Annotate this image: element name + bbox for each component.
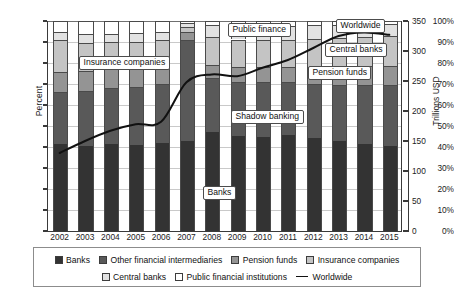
y-axis-right-line (408, 21, 409, 232)
bar-segment[interactable] (129, 33, 144, 41)
bar-segment[interactable] (78, 91, 93, 146)
gridline (48, 210, 401, 211)
chart-legend: BanksOther financial intermediariesPensi… (33, 247, 421, 287)
bar-segment[interactable] (180, 40, 195, 141)
bar-segment[interactable] (281, 82, 296, 135)
gridline (48, 126, 401, 127)
bar-segment[interactable] (205, 78, 220, 132)
bar-segment[interactable] (180, 23, 195, 27)
bar-segment[interactable] (53, 92, 68, 144)
bar-segment[interactable] (129, 21, 144, 33)
bar-segment[interactable] (155, 84, 170, 143)
legend-item[interactable]: Insurance companies (306, 255, 399, 265)
legend-item[interactable]: Banks (55, 255, 90, 265)
bar-stack[interactable] (307, 21, 322, 231)
bar-segment[interactable] (78, 21, 93, 34)
bar-segment[interactable] (155, 21, 170, 32)
bar-segment[interactable] (129, 87, 144, 145)
legend-item[interactable]: Pension funds (231, 255, 297, 265)
bar-segment[interactable] (231, 67, 246, 82)
bar-segment[interactable] (104, 34, 119, 43)
bar-segment[interactable] (205, 21, 220, 25)
bar-segment[interactable] (155, 32, 170, 40)
bar-segment[interactable] (281, 67, 296, 82)
bar-segment[interactable] (383, 85, 398, 146)
bar-segment[interactable] (205, 65, 220, 78)
bar-segment[interactable] (78, 34, 93, 43)
y-axis-right-tick-label: 350 (412, 16, 448, 26)
legend-item-label: Public financial institutions (187, 272, 287, 282)
bar-segment[interactable] (205, 132, 220, 231)
bar-stack[interactable] (129, 21, 144, 231)
bar-stack[interactable] (53, 21, 68, 231)
bar-segment[interactable] (332, 141, 347, 231)
y-axis-right-tick-label: 50 (412, 196, 448, 206)
bar-stack[interactable] (78, 21, 93, 231)
legend-color-swatch (175, 273, 183, 281)
bar-segment[interactable] (129, 145, 144, 231)
bar-segment[interactable] (383, 21, 398, 24)
legend-item[interactable]: Worldwide (296, 272, 352, 282)
bar-segment[interactable] (383, 146, 398, 231)
bar-segment[interactable] (53, 32, 68, 40)
bar-segment[interactable] (78, 71, 93, 91)
y-axis-right-tick-label: 0 (412, 226, 448, 236)
bar-segment[interactable] (256, 40, 271, 67)
x-axis-tick-label: 2003 (76, 232, 95, 242)
bar-segment[interactable] (357, 85, 372, 143)
bar-segment[interactable] (231, 40, 246, 68)
bar-segment[interactable] (383, 24, 398, 36)
bar-segment[interactable] (180, 32, 195, 41)
bar-segment[interactable] (129, 68, 144, 87)
bar-stack[interactable] (281, 21, 296, 231)
legend-item[interactable]: Central banks (102, 272, 167, 282)
y-axis-right-tick-label: 100 (412, 166, 448, 176)
legend-item[interactable]: Other financial intermediaries (99, 255, 222, 265)
bar-segment[interactable] (180, 21, 195, 23)
bar-segment[interactable] (104, 69, 119, 88)
bar-segment[interactable] (53, 72, 68, 92)
bar-segment[interactable] (53, 21, 68, 32)
gridline (48, 147, 401, 148)
bar-segment[interactable] (180, 141, 195, 231)
bar-segment[interactable] (256, 137, 271, 231)
legend-line-swatch (296, 276, 308, 277)
bar-segment[interactable] (307, 39, 322, 67)
bar-stack[interactable] (180, 21, 195, 231)
callout-banks: Banks (203, 186, 236, 200)
callout-public-finance: Public finance (228, 23, 291, 37)
x-axis-tick-label: 2012 (304, 232, 323, 242)
bar-segment[interactable] (155, 143, 170, 231)
legend-item[interactable]: Public financial institutions (175, 272, 287, 282)
bar-segment[interactable] (205, 25, 220, 37)
x-axis-tick-label: 2015 (380, 232, 399, 242)
legend-color-swatch (99, 256, 107, 264)
x-axis-tick-label: 2006 (152, 232, 171, 242)
bar-segment[interactable] (104, 88, 119, 144)
bar-segment[interactable] (104, 144, 119, 231)
bar-segment[interactable] (281, 135, 296, 231)
bar-segment[interactable] (53, 144, 68, 231)
bar-segment[interactable] (78, 146, 93, 231)
bar-stack[interactable] (155, 21, 170, 231)
bar-segment[interactable] (307, 138, 322, 231)
bar-segment[interactable] (332, 85, 347, 141)
bar-segment[interactable] (231, 136, 246, 231)
bar-segment[interactable] (205, 37, 220, 65)
bar-stack[interactable] (256, 21, 271, 231)
bar-segment[interactable] (104, 21, 119, 34)
bar-segment[interactable] (307, 25, 322, 39)
bar-segment[interactable] (383, 66, 398, 85)
legend-row-1: BanksOther financial intermediariesPensi… (34, 251, 420, 268)
bar-segment[interactable] (231, 82, 246, 136)
bar-segment[interactable] (53, 40, 68, 72)
bar-segment[interactable] (256, 67, 271, 82)
bar-segment[interactable] (357, 144, 372, 231)
y-axis-right-tick-label: 150 (412, 136, 448, 146)
bar-segment[interactable] (307, 21, 322, 25)
bar-segment[interactable] (180, 27, 195, 32)
bar-stack[interactable] (104, 21, 119, 231)
bar-segment[interactable] (307, 84, 322, 138)
bar-segment[interactable] (281, 40, 296, 67)
chart-root: Percent Trillions USD 0%10%20%30%40%50%6… (0, 0, 454, 297)
